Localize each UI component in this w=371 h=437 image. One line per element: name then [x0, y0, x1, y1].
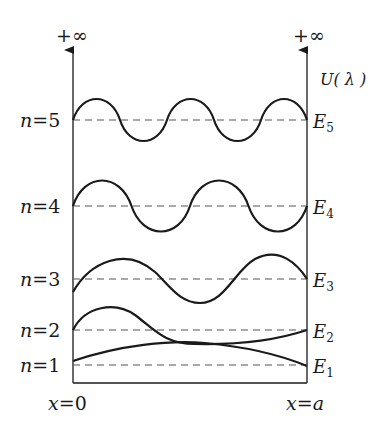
energy-labels: E5 E4 E3 E2 E1	[312, 111, 334, 380]
energy-label-4: E4	[312, 197, 334, 221]
n-label-3: n=3	[20, 268, 60, 290]
n-label-5: n=5	[20, 109, 60, 131]
energy-label-3: E3	[312, 270, 334, 294]
potential-label: U( λ )	[320, 70, 366, 89]
left-infinity-label: +∞	[56, 24, 88, 46]
wavefunctions	[73, 99, 307, 366]
energy-label-1: E1	[312, 356, 334, 380]
wavefunction-n1	[73, 342, 307, 366]
energy-level-lines	[73, 120, 307, 365]
right-infinity-label: +∞	[293, 24, 325, 46]
energy-label-2: E2	[312, 321, 334, 345]
energy-label-5: E5	[312, 111, 334, 135]
n-label-4: n=4	[20, 195, 60, 217]
well-diagram: +∞ +∞ U( λ ) n=5 n=4 n=3 n=2 n=1 E5 E4 E…	[0, 0, 371, 437]
x-a-label: x=a	[286, 392, 324, 414]
x-zero-label: x=0	[48, 392, 87, 414]
n-labels: n=5 n=4 n=3 n=2 n=1	[20, 109, 60, 376]
n-label-1: n=1	[20, 354, 60, 376]
wavefunction-n2	[73, 307, 307, 344]
n-label-2: n=2	[20, 319, 60, 341]
